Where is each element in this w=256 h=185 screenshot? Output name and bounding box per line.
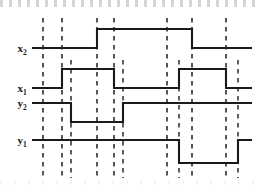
waveform-y1	[32, 140, 252, 163]
signal-group-x2: x2	[17, 29, 252, 57]
timing-diagram-figure: x2x1y2y1	[0, 0, 256, 185]
signal-label-y1: y1	[17, 134, 27, 149]
scan-noise-bottom	[0, 180, 256, 185]
signal-group-y2: y2	[17, 97, 252, 122]
signal-label-y2: y2	[17, 97, 27, 112]
signal-label-x1: x1	[17, 82, 27, 97]
waveform-x2	[32, 29, 252, 48]
signal-label-sub-y1: 1	[23, 140, 27, 149]
signal-group-x1: x1	[17, 69, 252, 97]
signal-label-x2: x2	[17, 42, 27, 57]
waveform-canvas: x2x1y2y1	[0, 0, 256, 185]
signal-label-sub-x2: 2	[23, 48, 27, 57]
signal-label-sub-x1: 1	[23, 88, 27, 97]
signal-label-sub-y2: 2	[23, 103, 27, 112]
aux-marker-lines	[71, 60, 238, 178]
waveform-y2	[32, 103, 252, 122]
signal-group-y1: y1	[17, 134, 252, 163]
waveform-x1	[32, 69, 252, 88]
